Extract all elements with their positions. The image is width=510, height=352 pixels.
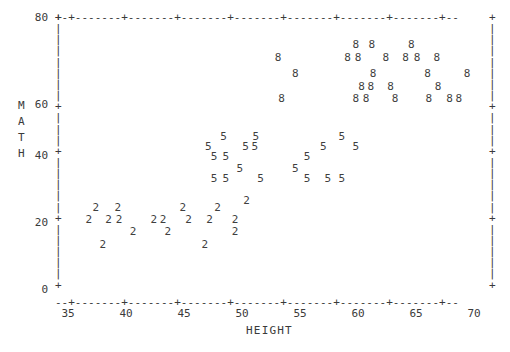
data-point-2: 2 [151, 214, 158, 225]
data-point-2: 2 [206, 214, 213, 225]
data-point-8: 8 [370, 68, 377, 79]
y-tick-label: 40 [35, 150, 48, 161]
data-point-5: 5 [304, 151, 311, 162]
x-tick-label: 55 [293, 308, 306, 319]
right-axis-segment: | [489, 190, 496, 201]
data-point-8: 8 [275, 52, 282, 63]
data-point-2: 2 [214, 202, 221, 213]
right-axis-segment: | [489, 124, 496, 135]
x-tick-label: 45 [177, 308, 190, 319]
data-point-2: 2 [93, 202, 100, 213]
data-point-2: 2 [164, 226, 171, 237]
data-point-2: 2 [100, 239, 107, 250]
data-point-5: 5 [242, 141, 249, 152]
data-point-8: 8 [292, 68, 299, 79]
data-point-5: 5 [220, 131, 227, 142]
data-point-8: 8 [414, 52, 421, 63]
y-tick-label: 0 [41, 284, 48, 295]
data-point-8: 8 [456, 93, 463, 104]
data-point-8: 8 [387, 81, 394, 92]
data-point-2: 2 [86, 214, 93, 225]
y-axis-title-char: T [18, 130, 25, 146]
data-point-2: 2 [243, 195, 250, 206]
scatter-plot-canvas: MATH 806040200 +|||||||+|||+|||||+|||||+… [0, 0, 510, 352]
x-tick-label: 40 [119, 308, 132, 319]
x-axis-title: HEIGHT [246, 325, 293, 336]
x-tick-label: 50 [235, 308, 248, 319]
data-point-2: 2 [185, 214, 192, 225]
data-point-5: 5 [257, 173, 264, 184]
data-point-5: 5 [236, 163, 243, 174]
y-axis-segment: | [55, 268, 62, 279]
x-tick-label: 35 [61, 308, 74, 319]
x-tick-label: 60 [351, 308, 364, 319]
data-point-5: 5 [222, 173, 229, 184]
data-point-8: 8 [352, 39, 359, 50]
data-point-8: 8 [278, 93, 285, 104]
x-tick-label: 65 [409, 308, 422, 319]
data-point-8: 8 [369, 39, 376, 50]
y-axis-segment: | [55, 57, 62, 68]
x-tick-label: 70 [467, 308, 480, 319]
top-axis-rule: +-+-------+-------+-------+-------+-----… [55, 12, 459, 23]
data-point-5: 5 [338, 173, 345, 184]
y-axis-title-char: A [18, 114, 25, 130]
data-point-8: 8 [355, 52, 362, 63]
y-axis-title-char: H [18, 146, 25, 162]
data-point-8: 8 [446, 93, 453, 104]
y-axis-segment: | [55, 135, 62, 146]
data-point-8: 8 [408, 39, 415, 50]
y-tick-label: 80 [35, 12, 48, 23]
right-axis-tick: + [489, 280, 496, 291]
data-point-8: 8 [434, 52, 441, 63]
data-point-5: 5 [304, 173, 311, 184]
data-point-8: 8 [344, 52, 351, 63]
data-point-8: 8 [363, 93, 370, 104]
data-point-8: 8 [352, 93, 359, 104]
data-point-5: 5 [251, 141, 258, 152]
y-axis-segment: | [55, 112, 62, 123]
data-point-2: 2 [105, 214, 112, 225]
data-point-8: 8 [402, 52, 409, 63]
data-point-8: 8 [425, 93, 432, 104]
data-point-2: 2 [232, 226, 239, 237]
data-point-5: 5 [292, 163, 299, 174]
bottom-axis-rule: --+-------+-------+-------+-------+-----… [55, 297, 459, 308]
y-tick-label: 20 [35, 217, 48, 228]
data-point-2: 2 [116, 214, 123, 225]
data-point-8: 8 [383, 52, 390, 63]
y-tick-label: 60 [35, 99, 48, 110]
y-axis-segment: | [55, 190, 62, 201]
data-point-5: 5 [338, 131, 345, 142]
data-point-5: 5 [222, 151, 229, 162]
y-axis-segment: | [55, 124, 62, 135]
data-point-8: 8 [358, 81, 365, 92]
data-point-2: 2 [160, 214, 167, 225]
data-point-5: 5 [211, 151, 218, 162]
data-point-8: 8 [464, 68, 471, 79]
y-axis-title: MATH [18, 98, 25, 162]
right-axis-segment: | [489, 202, 496, 213]
y-axis-segment: | [55, 202, 62, 213]
y-axis-tick: + [55, 280, 62, 291]
data-point-5: 5 [352, 141, 359, 152]
right-axis-segment: | [489, 135, 496, 146]
data-point-8: 8 [424, 68, 431, 79]
data-point-5: 5 [325, 173, 332, 184]
data-point-2: 2 [232, 214, 239, 225]
y-axis-title-char: M [18, 98, 25, 114]
data-point-8: 8 [435, 81, 442, 92]
data-point-8: 8 [367, 81, 374, 92]
data-point-5: 5 [320, 141, 327, 152]
data-point-2: 2 [180, 202, 187, 213]
right-axis-segment: | [489, 57, 496, 68]
data-point-2: 2 [115, 202, 122, 213]
data-point-8: 8 [392, 93, 399, 104]
y-axis-segment: | [55, 45, 62, 56]
right-axis-segment: | [489, 45, 496, 56]
data-point-2: 2 [130, 226, 137, 237]
data-point-2: 2 [202, 239, 209, 250]
data-point-5: 5 [211, 173, 218, 184]
right-axis-segment: | [489, 268, 496, 279]
right-axis-segment: | [489, 112, 496, 123]
